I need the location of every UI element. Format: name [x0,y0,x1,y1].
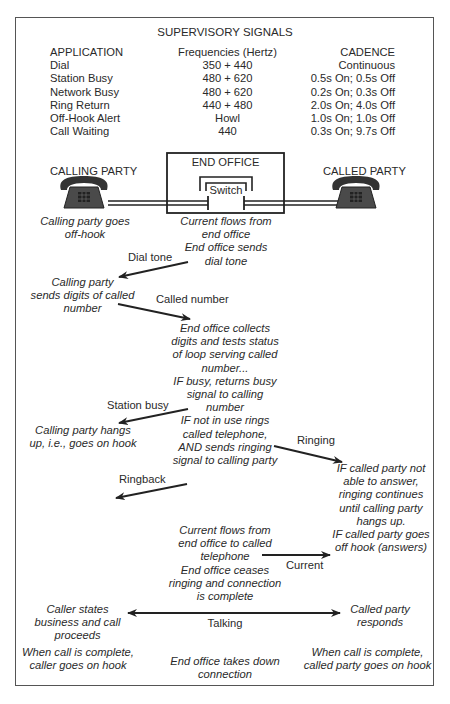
signal-frequency: Howl [160,112,295,125]
talking-label: Talking [190,617,260,630]
calling-party-label: CALLING PARTY [50,165,130,178]
takes-down-text: End office takes down connection [165,655,285,681]
header-cadence: CADENCE [295,46,395,59]
signal-frequency: 480 + 620 [160,86,295,99]
caller-onhook-text: When call is complete, caller goes on ho… [18,646,138,672]
called-responds-text: Called party responds [330,603,430,629]
signal-cadence: Continuous [295,59,395,72]
ringback-label: Ringback [119,473,166,486]
signal-row: Dial 350 + 440 Continuous [50,59,395,72]
station-busy-label: Station busy [107,399,169,412]
signal-frequency: 440 [160,125,295,138]
signals-title: SUPERVISORY SIGNALS [0,26,450,39]
called-onhook-text: When call is complete, called party goes… [300,646,435,672]
signal-row: Call Waiting 440 0.3s On; 9.7s Off [50,125,395,138]
ringing-label: Ringing [297,434,335,447]
signal-application: Network Busy [50,86,160,99]
signal-row: Ring Return 440 + 480 2.0s On; 4.0s Off [50,99,395,112]
hangs-up-text: Calling party hangs up, i.e., goes on ho… [28,424,138,450]
signal-frequency: 440 + 480 [160,99,295,112]
signal-cadence: 0.2s On; 0.3s Off [295,86,395,99]
current-flows-text: Current flows from end office End office… [166,215,286,268]
signal-frequency: 350 + 440 [160,59,295,72]
switch-label: Switch [206,184,246,197]
header-frequency: Frequencies (Hertz) [160,46,295,59]
signals-header-row: APPLICATION Frequencies (Hertz) CADENCE [50,46,395,59]
end-office-collects-text: End office collects digits and tests sta… [165,322,285,467]
sends-digits-text: Calling party sends digits of called num… [25,276,140,316]
signal-application: Station Busy [50,72,160,85]
signal-frequency: 480 + 620 [160,72,295,85]
signal-row: Off-Hook Alert Howl 1.0s On; 1.0s Off [50,112,395,125]
header-application: APPLICATION [50,46,160,59]
signal-row: Station Busy 480 + 620 0.5s On; 0.5s Off [50,72,395,85]
signals-table: APPLICATION Frequencies (Hertz) CADENCE … [50,46,395,138]
called-party-label: CALLED PARTY [323,165,423,178]
signal-row: Network Busy 480 + 620 0.2s On; 0.3s Off [50,86,395,99]
not-able-text: IF called party not able to answer, ring… [330,462,432,554]
signal-cadence: 1.0s On; 1.0s Off [295,112,395,125]
signal-cadence: 0.5s On; 0.5s Off [295,72,395,85]
end-office-label: END OFFICE [167,156,284,169]
signal-application: Ring Return [50,99,160,112]
caller-states-text: Caller states business and call proceeds [20,603,135,643]
dial-tone-label: Dial tone [128,251,172,264]
current-label: Current [286,559,323,572]
called-number-label: Called number [156,293,229,306]
signal-application: Dial [50,59,160,72]
signal-application: Call Waiting [50,125,160,138]
signal-cadence: 0.3s On; 9.7s Off [295,125,395,138]
signal-application: Off-Hook Alert [50,112,160,125]
calling-offhook-text: Calling party goes off-hook [30,215,140,241]
signal-cadence: 2.0s On; 4.0s Off [295,99,395,112]
current-to-called-text: Current flows from end office to called … [165,524,285,603]
